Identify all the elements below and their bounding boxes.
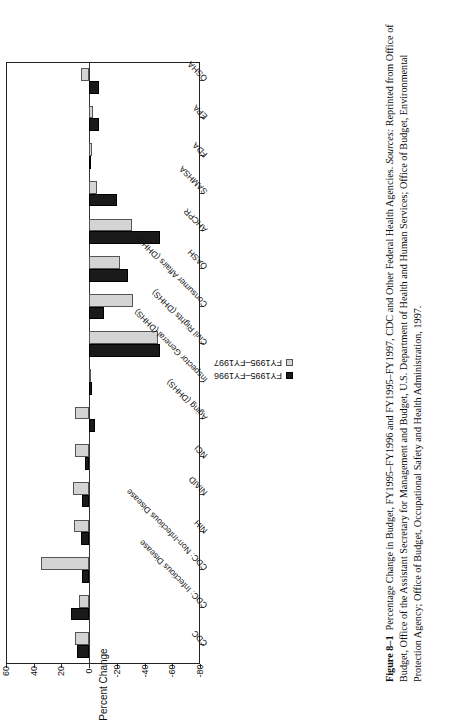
bar-fy1997 xyxy=(89,369,91,382)
bar-fy1996 xyxy=(81,532,89,545)
chart-container: FY1995–FY1996 FY1995–FY1997 xyxy=(0,32,238,672)
legend-label-fy1997: FY1995–FY1997 xyxy=(214,358,282,368)
bar-fy1996 xyxy=(89,344,160,357)
value-axis-label: -40 xyxy=(140,657,150,685)
bar-fy1997 xyxy=(89,180,97,193)
bar-fy1996 xyxy=(85,457,89,470)
bar-fy1997 xyxy=(41,557,90,570)
bar-fy1996 xyxy=(89,268,128,281)
bar-fy1997 xyxy=(75,632,89,645)
bar-fy1996 xyxy=(89,193,117,206)
value-axis-label: -80 xyxy=(195,657,205,685)
bar-fy1996 xyxy=(82,569,89,582)
bar-fy1996 xyxy=(89,419,95,432)
value-axis-label: 20 xyxy=(56,657,66,685)
bar-fy1996 xyxy=(89,381,92,394)
legend-entry-0[interactable]: FY1995–FY1996 xyxy=(214,371,293,381)
bar-fy1996 xyxy=(89,80,99,93)
figure-caption-block: Figure 8–1 Percentage Change in Budget, … xyxy=(382,0,454,703)
bar-fy1997 xyxy=(74,519,89,532)
bar-fy1997 xyxy=(89,256,119,269)
bar-fy1997 xyxy=(89,105,93,118)
bar-fy1997 xyxy=(79,594,89,607)
legend-entry-1[interactable]: FY1995–FY1997 xyxy=(214,358,293,368)
bar-fy1997 xyxy=(89,293,133,306)
bar-fy1996 xyxy=(89,156,91,169)
value-axis-label: -20 xyxy=(112,657,122,685)
figure-caption-main: Percentage Change in Budget, FY1995–FY19… xyxy=(384,166,395,630)
bar-fy1996 xyxy=(77,645,89,658)
bar-fy1997 xyxy=(75,444,89,457)
value-axis-label: 40 xyxy=(29,657,39,685)
bar-fy1997 xyxy=(75,406,89,419)
bar-fy1997 xyxy=(89,331,158,344)
legend-swatch-fy1997 xyxy=(286,359,293,366)
bar-fy1997 xyxy=(73,481,90,494)
bar-fy1997 xyxy=(89,143,92,156)
figure-sources-label: Sources: xyxy=(384,128,395,163)
value-axis-label: -60 xyxy=(167,657,177,685)
legend-label-fy1996: FY1995–FY1996 xyxy=(214,371,282,381)
value-axis-title: Percent Change xyxy=(98,644,109,724)
bar-fy1997 xyxy=(89,218,132,231)
bar-fy1996 xyxy=(89,118,99,131)
figure-caption-text: Figure 8–1 Percentage Change in Budget, … xyxy=(383,22,426,682)
value-axis-label: 60 xyxy=(1,657,11,685)
figure-caption-spacer xyxy=(384,630,395,635)
chart-plot-area: FY1995–FY1996 FY1995–FY1997 xyxy=(0,32,238,672)
figure-caption-rotor: Figure 8–1 Percentage Change in Budget, … xyxy=(383,22,453,682)
bar-fy1996 xyxy=(71,607,89,620)
bar-fy1997 xyxy=(81,68,89,81)
legend-swatch-fy1996 xyxy=(286,372,293,379)
figure-label: Figure 8–1 xyxy=(384,635,395,682)
value-axis-label: 0 xyxy=(84,657,94,685)
bar-fy1996 xyxy=(89,306,104,319)
bar-fy1996 xyxy=(82,494,89,507)
